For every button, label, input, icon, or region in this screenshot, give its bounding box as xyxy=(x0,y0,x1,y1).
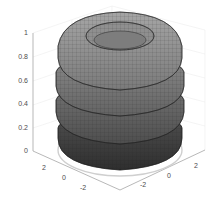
svg-text:0.6: 0.6 xyxy=(18,77,28,84)
surface-plot: 1 0.8 0.6 0.4 0.2 0 2 0 -2 -2 0 2 xyxy=(0,0,224,197)
svg-text:0: 0 xyxy=(167,172,171,179)
svg-text:0: 0 xyxy=(62,174,66,181)
svg-text:2: 2 xyxy=(194,162,198,169)
svg-text:-2: -2 xyxy=(140,181,146,188)
svg-text:0.8: 0.8 xyxy=(18,53,28,60)
svg-text:0.4: 0.4 xyxy=(18,100,28,107)
svg-text:1: 1 xyxy=(24,29,28,36)
svg-text:0: 0 xyxy=(24,147,28,154)
svg-text:2: 2 xyxy=(42,164,46,171)
svg-text:-2: -2 xyxy=(80,184,86,191)
svg-text:0.2: 0.2 xyxy=(18,124,28,131)
y-axis-ticks: 2 0 -2 xyxy=(42,164,86,191)
z-axis-ticks: 1 0.8 0.6 0.4 0.2 0 xyxy=(18,29,28,154)
surface xyxy=(56,12,184,170)
